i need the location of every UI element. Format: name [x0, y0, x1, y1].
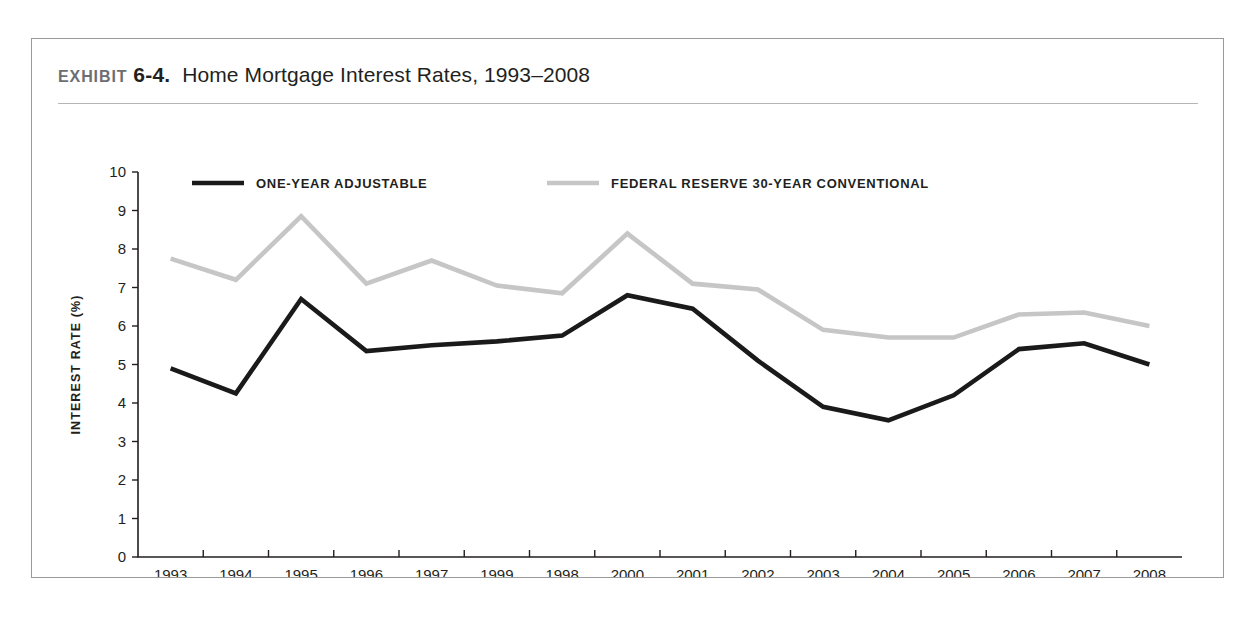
x-axis-tick-label: 2002	[741, 566, 774, 577]
x-axis-tick-label: 2006	[1002, 566, 1035, 577]
legend-label-2: FEDERAL RESERVE 30-YEAR CONVENTIONAL	[611, 176, 929, 191]
x-axis-tick-label: 1993	[154, 566, 187, 577]
y-axis-tick-label: 3	[118, 433, 126, 450]
x-axis-tick-label: 1999	[480, 566, 513, 577]
x-axis-tick-label: 2004	[872, 566, 905, 577]
series-line-2	[171, 216, 1150, 337]
exhibit-number: 6-4.	[133, 63, 170, 86]
series-line-1	[171, 295, 1150, 420]
y-axis-tick-label: 6	[118, 317, 126, 334]
y-axis-tick-label: 8	[118, 240, 126, 257]
x-axis-tick-label: 2000	[611, 566, 644, 577]
x-axis-tick-label: 1996	[350, 566, 383, 577]
chart-axes	[138, 172, 1182, 557]
line-chart: 0123456789101993199419951996199719991998…	[32, 109, 1223, 577]
y-axis-tick-label: 9	[118, 202, 126, 219]
title-divider	[58, 103, 1198, 104]
x-axis-tick-label: 2003	[806, 566, 839, 577]
exhibit-kicker: EXHIBIT	[58, 68, 127, 85]
exhibit-caption: Home Mortgage Interest Rates, 1993–2008	[182, 63, 590, 86]
y-axis-tick-label: 0	[118, 548, 126, 565]
y-axis-tick-label: 2	[118, 471, 126, 488]
x-axis-tick-label: 2007	[1067, 566, 1100, 577]
y-axis-tick-label: 4	[118, 394, 126, 411]
exhibit-frame: EXHIBIT 6-4. Home Mortgage Interest Rate…	[31, 38, 1224, 578]
x-axis-tick-label: 1994	[219, 566, 252, 577]
y-axis-tick-label: 1	[118, 510, 126, 527]
page-title: EXHIBIT 6-4. Home Mortgage Interest Rate…	[58, 63, 1198, 87]
x-axis-tick-label: 2005	[937, 566, 970, 577]
x-axis-tick-label: 1997	[415, 566, 448, 577]
y-axis-tick-label: 5	[118, 356, 126, 373]
chart-canvas: 0123456789101993199419951996199719991998…	[32, 109, 1223, 577]
legend-label-1: ONE-YEAR ADJUSTABLE	[256, 176, 427, 191]
x-axis-tick-label: 2008	[1133, 566, 1166, 577]
y-axis-tick-label: 10	[109, 163, 126, 180]
y-axis-tick-label: 7	[118, 279, 126, 296]
x-axis-tick-label: 1995	[284, 566, 317, 577]
x-axis-tick-label: 2001	[676, 566, 709, 577]
y-axis-title: INTEREST RATE (%)	[69, 295, 83, 435]
x-axis-tick-label: 1998	[545, 566, 578, 577]
